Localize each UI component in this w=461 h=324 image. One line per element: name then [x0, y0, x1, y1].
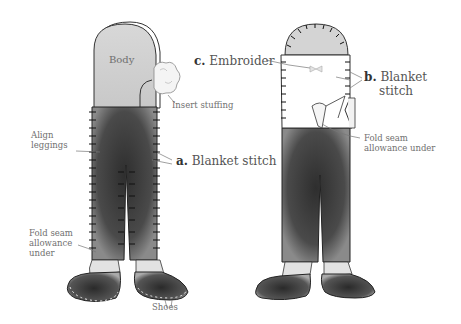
shoe-left	[67, 272, 120, 302]
step-c-letter: c.	[194, 54, 205, 68]
label-shoes: Shoes	[152, 302, 178, 312]
stuffing-cloud	[154, 62, 180, 94]
label-step-b: b. Blanket stitch	[364, 70, 427, 99]
label-align-line-1: Align	[31, 130, 68, 140]
fold-left-line-2: allowance	[29, 238, 73, 248]
legging-left	[92, 107, 157, 260]
label-align-leggings: Align leggings	[31, 130, 68, 150]
step-b-letter: b.	[364, 70, 377, 84]
body-shape	[94, 24, 156, 108]
step-c-text: Embroider	[209, 54, 274, 68]
label-insert-stuffing: Insert stuffing	[172, 100, 233, 110]
label-step-a: a. Blanket stitch	[176, 154, 276, 168]
step-a-text: Blanket stitch	[192, 154, 277, 168]
step-a-letter: a.	[176, 154, 188, 168]
fold-right-line-1: Fold seam	[364, 133, 435, 143]
label-step-c: c. Embroider	[194, 54, 274, 68]
label-body: Body	[109, 54, 134, 66]
step-b-text-1: Blanket	[380, 70, 427, 84]
label-align-line-2: leggings	[31, 140, 68, 150]
fold-left-line-1: Fold seam	[29, 228, 73, 238]
label-fold-right: Fold seam allowance under	[364, 133, 435, 153]
step-b-line-1: b. Blanket	[364, 70, 427, 84]
label-fold-left: Fold seam allowance under	[29, 228, 73, 259]
step-b-line-2: stitch	[364, 84, 427, 98]
shoe-right	[134, 272, 188, 300]
fold-right-line-2: allowance under	[364, 143, 435, 153]
fold-left-line-3: under	[29, 248, 73, 258]
